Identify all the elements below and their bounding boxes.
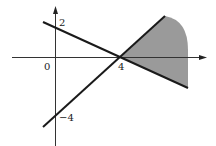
y-intercept-top-label: 2 — [59, 17, 65, 28]
graph-canvas: 0 2 4 −4 — [0, 0, 216, 146]
x-intercept-label: 4 — [118, 61, 124, 72]
increasing-line — [43, 16, 165, 127]
origin-label: 0 — [44, 61, 50, 72]
y-axis-arrow-icon — [53, 6, 58, 14]
y-intercept-bottom-label: −4 — [59, 112, 74, 123]
x-axis-arrow-icon — [199, 55, 207, 60]
